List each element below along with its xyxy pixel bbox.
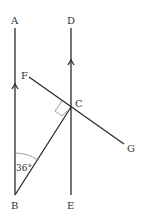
label-a: A: [10, 15, 19, 26]
line-fg: [29, 77, 124, 144]
angle-label: 36°: [16, 163, 32, 173]
label-e: E: [67, 200, 74, 211]
label-b: B: [11, 200, 18, 211]
label-c: C: [75, 98, 83, 109]
geometry-diagram: A D F C G B E 36°: [0, 0, 142, 217]
label-f: F: [21, 70, 28, 81]
angle-arc-icon: [15, 153, 38, 160]
label-g: G: [127, 143, 135, 154]
label-d: D: [67, 15, 75, 26]
line-bc: [15, 107, 71, 195]
